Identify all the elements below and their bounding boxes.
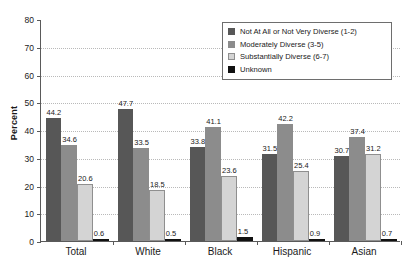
legend-swatch-icon	[228, 53, 235, 60]
y-tick-mark	[37, 187, 41, 188]
bar-value-label: 1.5	[238, 228, 248, 236]
bar[interactable]	[118, 109, 134, 241]
y-tick-mark	[37, 76, 41, 77]
bar-chart: Percent 44.234.620.60.647.733.518.50.533…	[0, 0, 414, 278]
y-tick-label: 0	[0, 238, 34, 247]
bar-value-label: 30.7	[335, 147, 350, 155]
legend-label: Not At All or Not Very Diverse (1-2)	[240, 27, 357, 36]
bar[interactable]	[77, 184, 93, 241]
bar-value-label: 0.6	[94, 230, 104, 238]
bar[interactable]	[133, 148, 149, 241]
x-axis-category-label: Total	[40, 246, 112, 257]
y-tick-label: 40	[0, 127, 34, 136]
x-tick-mark	[185, 241, 186, 245]
bar[interactable]	[334, 156, 350, 241]
x-tick-mark	[257, 241, 258, 245]
bar-value-label: 18.5	[150, 181, 165, 189]
bar-value-label: 23.6	[222, 167, 237, 175]
bar-value-label: 20.6	[78, 175, 93, 183]
bar[interactable]	[93, 239, 109, 241]
bar-value-label: 33.5	[134, 139, 149, 147]
bar-group: 44.234.620.60.6	[46, 20, 109, 241]
y-tick-label: 50	[0, 99, 34, 108]
y-tick-label: 30	[0, 155, 34, 164]
bar[interactable]	[349, 137, 365, 241]
bar[interactable]	[205, 127, 221, 241]
legend-item-2[interactable]: Substantially Diverse (6-7)	[228, 52, 386, 61]
bar-value-label: 31.5	[263, 145, 278, 153]
y-tick-mark	[37, 242, 41, 243]
y-tick-label: 70	[0, 44, 34, 53]
bar-value-label: 44.2	[47, 109, 62, 117]
y-tick-mark	[37, 214, 41, 215]
y-tick-label: 20	[0, 183, 34, 192]
bar-value-label: 31.2	[366, 145, 381, 153]
legend-item-3[interactable]: Unknown	[228, 65, 386, 74]
legend-swatch-icon	[228, 41, 235, 48]
x-axis-category-label: Asian	[328, 246, 400, 257]
y-tick-mark	[37, 48, 41, 49]
y-tick-mark	[37, 159, 41, 160]
legend-item-1[interactable]: Moderately Diverse (3-5)	[228, 40, 386, 49]
bar-value-label: 0.5	[166, 230, 176, 238]
x-axis-category-label: Black	[184, 246, 256, 257]
x-tick-mark	[113, 241, 114, 245]
bar[interactable]	[61, 145, 77, 241]
chart-legend: Not At All or Not Very Diverse (1-2) Mod…	[222, 22, 392, 80]
bar[interactable]	[381, 239, 397, 241]
bar[interactable]	[277, 124, 293, 241]
bar-value-label: 41.1	[206, 118, 221, 126]
legend-swatch-icon	[228, 28, 235, 35]
x-tick-mark	[329, 241, 330, 245]
y-tick-mark	[37, 103, 41, 104]
y-tick-label: 60	[0, 72, 34, 81]
bar[interactable]	[46, 118, 62, 241]
y-tick-mark	[37, 131, 41, 132]
bar[interactable]	[293, 171, 309, 241]
bar-group: 47.733.518.50.5	[118, 20, 181, 241]
bar-value-label: 0.7	[382, 230, 392, 238]
x-axis-category-label: White	[112, 246, 184, 257]
x-axis-category-label: Hispanic	[256, 246, 328, 257]
bar[interactable]	[262, 154, 278, 241]
bar-value-label: 47.7	[119, 100, 134, 108]
bar[interactable]	[165, 239, 181, 241]
bar-value-label: 25.4	[294, 162, 309, 170]
bar-value-label: 0.9	[310, 230, 320, 238]
bar[interactable]	[221, 176, 237, 241]
y-tick-label: 10	[0, 210, 34, 219]
bar-value-label: 42.2	[278, 115, 293, 123]
bar[interactable]	[237, 237, 253, 241]
y-tick-mark	[37, 20, 41, 21]
y-tick-label: 80	[0, 16, 34, 25]
legend-item-0[interactable]: Not At All or Not Very Diverse (1-2)	[228, 27, 386, 36]
legend-label: Unknown	[240, 65, 272, 74]
bar[interactable]	[190, 147, 206, 241]
legend-label: Moderately Diverse (3-5)	[240, 40, 324, 49]
bar-value-label: 33.8	[191, 138, 206, 146]
legend-label: Substantially Diverse (6-7)	[240, 52, 329, 61]
bar[interactable]	[309, 239, 325, 241]
legend-swatch-icon	[228, 66, 235, 73]
bar-value-label: 34.6	[62, 136, 77, 144]
x-tick-mark	[401, 241, 402, 245]
bar[interactable]	[365, 154, 381, 241]
bar[interactable]	[149, 190, 165, 241]
bar-value-label: 37.4	[350, 128, 365, 136]
